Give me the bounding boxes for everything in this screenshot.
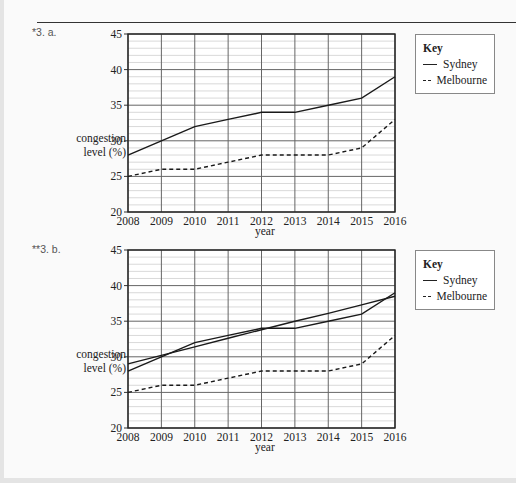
- svg-text:2011: 2011: [217, 431, 240, 443]
- svg-text:2009: 2009: [150, 431, 173, 443]
- svg-text:40: 40: [111, 280, 123, 292]
- legend-title: Key: [423, 40, 487, 56]
- legend-item-sydney: Sydney: [423, 272, 487, 288]
- svg-text:30: 30: [111, 135, 123, 147]
- legend-item-sydney: Sydney: [423, 56, 487, 72]
- worksheet-page: *3. a. **3. b. congestion level (%) cong…: [4, 0, 516, 478]
- svg-text:2014: 2014: [317, 431, 340, 443]
- svg-text:40: 40: [111, 64, 123, 76]
- dashed-line-swatch-icon: [423, 296, 431, 297]
- x-axis-label-b: year: [255, 441, 275, 453]
- legend-a: Key Sydney Melbourne: [415, 34, 495, 94]
- svg-text:25: 25: [111, 386, 123, 398]
- svg-text:45: 45: [111, 244, 123, 256]
- svg-text:35: 35: [111, 315, 123, 327]
- solid-line-swatch-icon: [423, 64, 437, 65]
- legend-b: Key Sydney Melbourne: [415, 250, 495, 310]
- x-axis-label-a: year: [255, 225, 275, 237]
- svg-text:30: 30: [111, 351, 123, 363]
- svg-text:20: 20: [111, 422, 123, 434]
- svg-text:35: 35: [111, 99, 123, 111]
- svg-text:25: 25: [111, 170, 123, 182]
- svg-text:2015: 2015: [350, 431, 373, 443]
- svg-text:45: 45: [111, 28, 123, 40]
- svg-text:2016: 2016: [384, 431, 407, 443]
- legend-title: Key: [423, 256, 487, 272]
- svg-text:2013: 2013: [283, 431, 306, 443]
- svg-text:2010: 2010: [183, 431, 206, 443]
- legend-item-melbourne: Melbourne: [423, 72, 487, 88]
- solid-line-swatch-icon: [423, 280, 437, 281]
- dashed-line-swatch-icon: [423, 80, 431, 81]
- legend-item-melbourne: Melbourne: [423, 288, 487, 304]
